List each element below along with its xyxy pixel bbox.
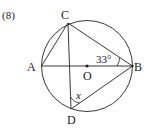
angle-x-label: x (75, 89, 81, 101)
label-a: A (27, 60, 36, 74)
center-point (85, 64, 88, 67)
geometry-diagram: (8) C A B O D 33° x (0, 0, 150, 129)
angle-arc-b (117, 57, 120, 66)
label-o: O (83, 69, 92, 83)
angle-33-label: 33° (96, 53, 111, 65)
label-c: C (61, 8, 69, 22)
label-d: D (67, 113, 76, 127)
segment-db (71, 66, 133, 109)
segment-ac (42, 23, 69, 66)
problem-number: (8) (2, 9, 15, 22)
label-b: B (134, 60, 142, 74)
